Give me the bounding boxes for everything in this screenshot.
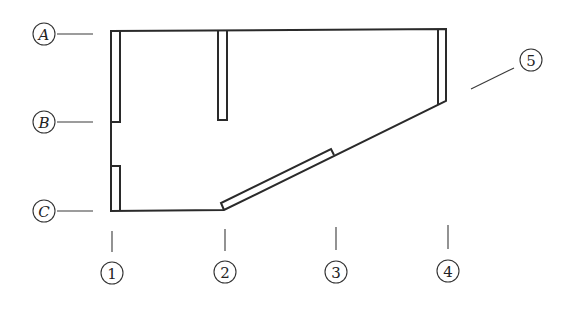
wall-segment-B-C-1 xyxy=(111,166,120,211)
row-axes: ABC xyxy=(33,23,93,222)
column-axis-4: 4 xyxy=(437,225,459,282)
wall-segment-A-2 xyxy=(218,31,227,120)
row-axis-b: B xyxy=(33,111,93,133)
axis-label: 1 xyxy=(107,265,117,283)
callout-5: 5 xyxy=(471,49,542,89)
callouts: 5 xyxy=(471,49,542,89)
axis-label: C xyxy=(38,203,50,221)
axis-label: B xyxy=(37,114,49,132)
leader-line xyxy=(471,68,514,89)
floor-plan-diagram: ABC 1234 5 xyxy=(0,0,574,313)
axis-label: A xyxy=(37,26,50,44)
wall-segment-A-1-2 xyxy=(111,31,120,122)
axis-label: 4 xyxy=(443,263,453,281)
axis-label: 5 xyxy=(526,52,536,70)
wall-segment-diagonal xyxy=(221,149,334,210)
wall-segments xyxy=(111,29,438,211)
axis-label: 2 xyxy=(220,264,230,282)
column-axis-2: 2 xyxy=(214,229,236,283)
column-axis-1: 1 xyxy=(101,231,123,284)
axis-label: 3 xyxy=(331,264,341,282)
row-axis-c: C xyxy=(33,200,93,222)
row-axis-a: A xyxy=(33,23,93,45)
column-axes: 1234 xyxy=(101,225,459,284)
building-outline xyxy=(111,29,446,211)
column-axis-3: 3 xyxy=(325,227,347,283)
